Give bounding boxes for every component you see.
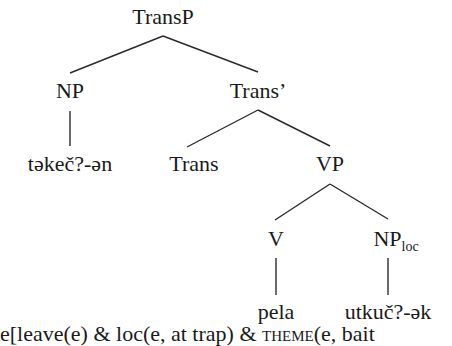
edge-transbar-vp [258,110,330,146]
edge-transp-np [70,36,163,73]
node-np-loc: NPloc [373,228,418,250]
formula-part2: (e, bait [314,321,375,346]
np-loc-label: NP [373,226,401,251]
edge-transbar-trans [187,110,258,147]
edge-vp-nploc [330,184,388,219]
semantic-formula: e[leave(e) & loc(e, at trap) & theme(e, … [0,322,375,346]
node-trans-head: Trans [169,153,218,175]
node-trans-bar: Trans’ [230,80,287,102]
formula-part1: e[leave(e) & loc(e, at trap) & [0,321,262,346]
formula-theme: theme [262,321,314,346]
leaf-v-word: pela [258,301,295,323]
leaf-np-loc-word: utkuč?-әk [345,301,432,323]
leaf-np-subject-word: tәkeč?-әn [28,153,112,175]
node-vp: VP [316,153,344,175]
node-v: V [268,228,284,250]
node-transp: TransP [132,6,194,28]
edge-transp-transbar [163,36,258,72]
node-np-subject: NP [56,80,84,102]
np-loc-subscript: loc [402,239,419,254]
edge-vp-v [275,184,330,220]
